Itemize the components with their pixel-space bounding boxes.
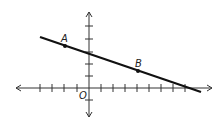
graph: A B O [0,0,224,124]
point-b [136,69,140,73]
origin-label: O [79,90,87,101]
point-b-label: B [135,58,142,69]
point-a-label: A [60,33,68,44]
coordinate-plane: A B O [0,0,224,124]
point-a [63,44,67,48]
